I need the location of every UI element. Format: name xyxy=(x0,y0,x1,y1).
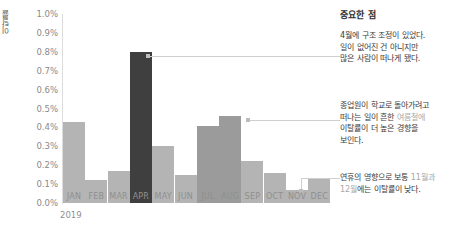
y-tick-label: 0.0% xyxy=(36,199,58,208)
x-tick-label-dec: DEC xyxy=(306,192,332,201)
annotation-nov-line1a: 연휴의 영향으로 보통 xyxy=(340,173,411,182)
annotation-aug-highlight: 여름철에 xyxy=(397,113,425,122)
plot-area xyxy=(62,14,330,203)
annotation-apr-line1: 4월에 구조 조정이 있었다. xyxy=(340,31,425,40)
bar-rect-aug xyxy=(219,116,241,203)
annotation-nov: 연휴의 영향으로 보통 11월과 12월에는 이탈률이 낮다. xyxy=(340,172,448,195)
y-axis-ticks: 1.0%0.9%0.8%0.7%0.6%0.5%0.4%0.3%0.2%0.1%… xyxy=(22,0,58,252)
bar-rect-apr xyxy=(130,52,152,203)
annotation-apr-line3: 많은 사람이 떠나게 됐다. xyxy=(340,54,420,63)
y-tick-label: 1.0% xyxy=(36,10,58,19)
y-tick-label: 0.7% xyxy=(36,67,58,76)
annotation-aug-line1: 종업원이 학교로 돌아가려고 xyxy=(340,101,429,110)
y-tick-label: 0.1% xyxy=(36,180,58,189)
x-axis-year-label: 2019 xyxy=(60,210,82,220)
y-tick-label: 0.4% xyxy=(36,123,58,132)
y-tick-label: 0.6% xyxy=(36,86,58,95)
callout-dot-aug xyxy=(246,118,250,122)
annotation-aug-line4: 보인다. xyxy=(340,136,364,145)
y-tick-label: 0.5% xyxy=(36,105,58,114)
callout-line-nov xyxy=(301,178,340,179)
annotation-aug-line3: 이탈률이 더 높은 경향을 xyxy=(340,124,418,133)
annotation-apr: 4월에 구조 조정이 있었다. 일이 없어진 건 아니지만 많은 사람이 떠나게… xyxy=(340,30,448,65)
y-tick-label: 0.8% xyxy=(36,48,58,57)
annotation-apr-line2: 일이 없어진 건 아니지만 xyxy=(340,43,418,52)
annotation-nov-highlight-dec: 12월 xyxy=(340,185,357,194)
annotation-aug-line2a: 떠나는 일이 흔한 xyxy=(340,113,397,122)
annotation-nov-highlight-nov: 11월과 xyxy=(411,173,435,182)
y-axis-title: 이탈률 xyxy=(1,10,15,34)
chart-page: 이탈률 1.0%0.9%0.8%0.7%0.6%0.5%0.4%0.3%0.2%… xyxy=(0,0,450,252)
callout-line-apr xyxy=(148,56,340,57)
annotations-title: 중요한 점 xyxy=(340,8,376,21)
annotations-panel: 중요한 점 4월에 구조 조정이 있었다. 일이 없어진 건 아니지만 많은 사… xyxy=(340,0,450,252)
bar-chart: 이탈률 1.0%0.9%0.8%0.7%0.6%0.5%0.4%0.3%0.2%… xyxy=(0,0,340,252)
annotation-aug: 종업원이 학교로 돌아가려고 떠나는 일이 흔한 여름철에 이탈률이 더 높은 … xyxy=(340,100,448,146)
annotation-nov-line2a: 에는 이탈률이 낮다. xyxy=(357,185,421,194)
y-tick-label: 0.3% xyxy=(36,142,58,151)
callout-line-aug xyxy=(248,120,340,121)
callout-dot-apr xyxy=(146,54,150,58)
y-tick-label: 0.9% xyxy=(36,29,58,38)
bar-rect-jan xyxy=(63,122,85,203)
y-tick-label: 0.2% xyxy=(36,161,58,170)
